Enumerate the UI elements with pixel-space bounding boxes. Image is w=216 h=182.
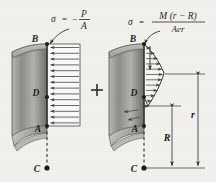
left-formula-minus: − xyxy=(72,14,77,24)
left-uniform-stress-block xyxy=(47,44,80,126)
right-formula-sigma: σ xyxy=(128,17,133,27)
right-formula-equals: = xyxy=(139,17,144,27)
right-point-D-label: D xyxy=(130,88,138,98)
right-point-C-label: C xyxy=(131,164,138,174)
left-point-B-label: B xyxy=(31,34,38,44)
right-point-B-label: B xyxy=(129,34,136,44)
right-point-A-marker xyxy=(142,124,146,128)
left-point-C-label: C xyxy=(34,164,41,174)
right-formula-denominator: Aer xyxy=(171,24,185,34)
right-point-C-marker xyxy=(141,165,146,170)
left-point-C-marker xyxy=(44,165,49,170)
left-point-D-marker xyxy=(45,95,49,99)
stress-superposition-figure: σ = − P A σ = M (r − R) Aer B D A C B D … xyxy=(0,0,216,182)
left-formula-equals: = xyxy=(62,14,67,24)
right-formula-numerator: M (r − R) xyxy=(158,11,196,22)
left-point-B-marker xyxy=(45,42,49,46)
dimension-r-label: r xyxy=(191,109,195,120)
left-point-A-label: A xyxy=(34,124,41,134)
figure-container: σ = − P A σ = M (r − R) Aer B D A C B D … xyxy=(0,0,216,182)
left-formula-sigma: σ xyxy=(51,14,56,24)
dimension-R-label: R xyxy=(163,132,171,143)
right-point-D-marker xyxy=(142,95,146,99)
left-point-A-marker xyxy=(45,124,49,128)
right-point-B-marker xyxy=(142,42,146,46)
right-point-A-label: A xyxy=(131,124,138,134)
left-formula-denominator: A xyxy=(80,21,87,31)
left-formula-numerator: P xyxy=(80,9,87,19)
left-beam-block xyxy=(12,44,47,151)
left-point-D-label: D xyxy=(32,88,40,98)
right-beam-block xyxy=(109,44,144,151)
